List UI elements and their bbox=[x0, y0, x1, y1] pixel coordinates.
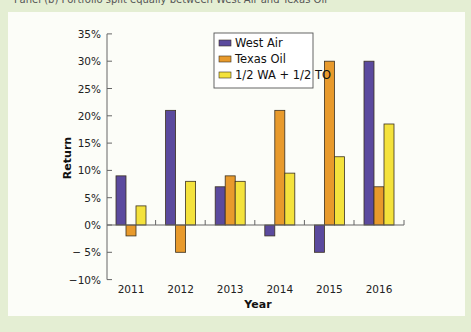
bar-texas-oil-2014 bbox=[275, 110, 285, 225]
x-axis-title: Year bbox=[243, 298, 272, 311]
legend-label: West Air bbox=[235, 36, 283, 50]
y-tick-label: 35% bbox=[78, 28, 101, 40]
bar-1-2-wa-1-2-to-2013 bbox=[235, 181, 245, 225]
bar-chart: 35%30%25%20%15%10%5%0%− 5%−10%2011201220… bbox=[8, 12, 465, 316]
y-tick-label: −10% bbox=[69, 274, 101, 286]
y-tick-label: 25% bbox=[78, 83, 101, 95]
legend-swatch-icon bbox=[219, 72, 231, 78]
bar-west-air-2016 bbox=[364, 61, 374, 225]
bar-1-2-wa-1-2-to-2015 bbox=[334, 157, 344, 225]
bar-west-air-2013 bbox=[215, 187, 225, 225]
y-tick-label: − 5% bbox=[72, 246, 101, 258]
bar-west-air-2015 bbox=[314, 225, 324, 252]
y-tick-label: 30% bbox=[78, 55, 101, 67]
y-tick-label: 10% bbox=[78, 164, 101, 176]
y-tick-label: 5% bbox=[84, 192, 101, 204]
legend-swatch-icon bbox=[219, 40, 231, 46]
bar-west-air-2011 bbox=[116, 176, 126, 225]
y-tick-label: 0% bbox=[84, 219, 101, 231]
bar-1-2-wa-1-2-to-2016 bbox=[384, 124, 394, 225]
bar-texas-oil-2013 bbox=[225, 176, 235, 225]
bar-1-2-wa-1-2-to-2012 bbox=[186, 181, 196, 225]
bar-texas-oil-2016 bbox=[374, 187, 384, 225]
y-axis-title: Return bbox=[61, 137, 74, 179]
bar-west-air-2012 bbox=[166, 110, 176, 225]
legend-label: Texas Oil bbox=[234, 52, 286, 66]
bar-1-2-wa-1-2-to-2014 bbox=[285, 173, 295, 225]
x-tick-label: 2016 bbox=[366, 283, 393, 295]
bar-texas-oil-2015 bbox=[324, 61, 334, 225]
y-tick-label: 15% bbox=[78, 137, 101, 149]
legend-label: 1/2 WA + 1/2 TO bbox=[235, 68, 331, 82]
bar-west-air-2014 bbox=[265, 225, 275, 236]
x-tick-label: 2014 bbox=[266, 283, 293, 295]
legend-swatch-icon bbox=[219, 56, 231, 62]
x-tick-label: 2015 bbox=[316, 283, 343, 295]
bar-texas-oil-2012 bbox=[176, 225, 186, 252]
bar-texas-oil-2011 bbox=[126, 225, 136, 236]
x-tick-label: 2012 bbox=[167, 283, 194, 295]
x-tick-label: 2013 bbox=[217, 283, 244, 295]
x-tick-label: 2011 bbox=[118, 283, 145, 295]
panel-caption: Panel (b) Portfolio split equally betwee… bbox=[14, 0, 327, 5]
chart-panel: 35%30%25%20%15%10%5%0%− 5%−10%2011201220… bbox=[8, 12, 465, 316]
bar-1-2-wa-1-2-to-2011 bbox=[136, 206, 146, 225]
y-tick-label: 20% bbox=[78, 110, 101, 122]
